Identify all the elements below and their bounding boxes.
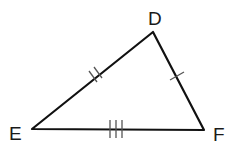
triangle-def-diagram: D E F	[0, 0, 237, 156]
vertex-label-f: F	[213, 124, 225, 145]
triangle-def	[32, 32, 204, 130]
vertex-label-d: D	[148, 8, 162, 29]
vertex-label-e: E	[9, 123, 22, 144]
side-de-tick-marks	[89, 67, 102, 82]
